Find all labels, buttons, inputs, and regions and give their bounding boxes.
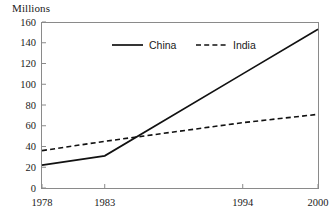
y-tick-label: 40 [26, 141, 37, 152]
x-tick-label: 2000 [308, 197, 329, 208]
chart-page: Millions 020406080100120140160 197819831… [0, 0, 335, 220]
y-tick-label: 80 [26, 100, 37, 111]
plot-border [42, 23, 319, 189]
x-tick-label: 1994 [232, 197, 254, 208]
x-axis-tick-labels: 1978198319942000 [32, 197, 329, 208]
y-tick-label: 140 [20, 37, 36, 48]
legend-label-india: India [233, 39, 256, 51]
y-tick-label: 160 [20, 17, 36, 28]
y-tick-label: 120 [20, 58, 36, 69]
x-tick-label: 1983 [94, 197, 115, 208]
y-tick-label: 0 [31, 183, 36, 194]
line-chart: 020406080100120140160 1978198319942000 C… [0, 0, 335, 220]
y-tick-label: 100 [20, 79, 36, 90]
legend-label-china: China [149, 39, 177, 51]
x-tick-label: 1978 [32, 197, 53, 208]
y-tick-label: 20 [26, 162, 37, 173]
y-axis-tick-labels: 020406080100120140160 [20, 17, 36, 194]
y-tick-label: 60 [26, 120, 37, 131]
